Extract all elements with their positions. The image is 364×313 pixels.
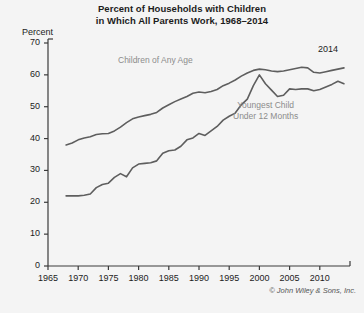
series-label-text-2b: Under 12 Months <box>233 111 298 122</box>
y-tick-label: 0 <box>14 260 40 270</box>
series-label-youngest-child: Youngest Child Under 12 Months <box>233 100 298 121</box>
annotation-2014: 2014 <box>318 44 338 54</box>
series-label-text-1: Children of Any Age <box>118 55 193 66</box>
x-tick-label: 2010 <box>300 273 340 283</box>
plot-area <box>0 0 364 313</box>
y-tick-label: 10 <box>14 228 40 238</box>
y-tick-label: 40 <box>14 133 40 143</box>
y-tick-label: 50 <box>14 101 40 111</box>
y-tick-label: 20 <box>14 196 40 206</box>
series-label-children-of-any-age: Children of Any Age <box>118 55 193 66</box>
y-tick-label: 30 <box>14 164 40 174</box>
series-line-children-of-any-age <box>66 67 344 145</box>
chart-figure: Percent of Households with Children in W… <box>0 0 364 313</box>
copyright-notice: © John Wiley & Sons, Inc. <box>269 286 356 295</box>
y-tick-label: 60 <box>14 69 40 79</box>
series-label-text-2a: Youngest Child <box>233 100 298 111</box>
y-tick-label: 70 <box>14 37 40 47</box>
